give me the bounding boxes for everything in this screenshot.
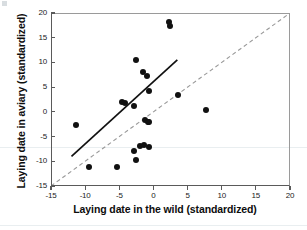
x-tick	[119, 186, 120, 190]
y-tick-label: 20	[27, 8, 47, 17]
data-point	[122, 100, 128, 106]
x-tick	[255, 186, 256, 190]
data-point	[203, 107, 209, 113]
x-tick-label: 0	[140, 191, 166, 200]
data-point	[133, 57, 139, 63]
x-tick	[153, 186, 154, 190]
x-tick-label: 15	[243, 191, 269, 200]
y-tick-label: -15	[27, 181, 47, 190]
y-tick-label: 0	[27, 107, 47, 116]
y-tick-label: 15	[27, 33, 47, 42]
plot-canvas	[51, 13, 290, 186]
x-tick-label: -15	[38, 191, 64, 200]
x-tick	[221, 186, 222, 190]
y-tick	[51, 111, 55, 112]
data-point	[131, 148, 137, 154]
x-tick	[85, 186, 86, 190]
trend-lines	[51, 13, 290, 186]
y-tick	[51, 37, 55, 38]
y-tick-label: 5	[27, 82, 47, 91]
x-tick-label: 10	[209, 191, 235, 200]
x-tick-label: -5	[106, 191, 132, 200]
x-tick	[289, 186, 290, 190]
y-tick-label: 10	[27, 57, 47, 66]
y-tick	[51, 87, 55, 88]
data-point	[146, 119, 152, 125]
y-axis-label: Laying date in aviary (standardized)	[15, 6, 27, 196]
data-point	[146, 144, 152, 150]
data-point	[114, 164, 120, 170]
y-tick	[51, 185, 55, 186]
x-tick-label: -10	[72, 191, 98, 200]
data-point	[144, 73, 150, 79]
scatter-plot-figure: -15-10-505101520 -15-10-505101520 Laying…	[0, 0, 307, 230]
x-axis-label: Laying date in the wild (standardized)	[30, 203, 300, 215]
y-tick	[51, 12, 55, 13]
y-tick	[51, 161, 55, 162]
y-tick	[51, 62, 55, 63]
data-point	[86, 164, 92, 170]
data-point	[133, 157, 139, 163]
scan-artifact-line	[0, 225, 307, 226]
scan-artifact-corner	[2, 1, 7, 6]
y-tick-label: -10	[27, 156, 47, 165]
x-tick	[187, 186, 188, 190]
identity-line	[51, 13, 290, 186]
y-tick-label: -5	[27, 132, 47, 141]
x-tick-label: 5	[175, 191, 201, 200]
data-point	[167, 23, 173, 29]
regression-line	[71, 60, 177, 156]
data-point	[146, 88, 152, 94]
x-tick	[50, 186, 51, 190]
x-tick-label: 20	[277, 191, 303, 200]
data-point	[175, 92, 181, 98]
y-tick	[51, 136, 55, 137]
data-point	[131, 103, 137, 109]
data-point	[73, 122, 79, 128]
